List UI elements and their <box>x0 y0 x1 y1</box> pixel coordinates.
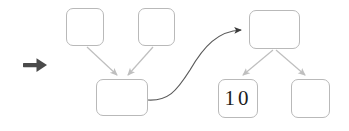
node-bottom-ten[interactable]: 10 <box>218 79 258 118</box>
node-bottom-right[interactable] <box>291 79 330 118</box>
node-top-left-2[interactable] <box>138 8 175 46</box>
node-top-left-1[interactable] <box>66 8 104 46</box>
node-label-ten: 10 <box>225 88 252 109</box>
step-right-arrow-icon <box>22 52 50 78</box>
connector-top-left-2-to-mid-left <box>128 47 153 75</box>
node-mid-left[interactable] <box>96 79 148 116</box>
node-top-right[interactable] <box>249 10 300 49</box>
connector-top-right-to-bottom-right <box>276 50 305 75</box>
diagram-canvas: 10 <box>0 0 349 131</box>
connector-top-right-to-bottom-ten <box>243 50 273 75</box>
connector-top-left-1-to-mid-left <box>87 47 117 75</box>
